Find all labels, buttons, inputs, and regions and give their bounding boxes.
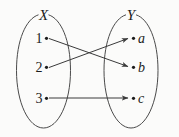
codomain-set-label: Y — [127, 7, 137, 23]
domain-element-3: 3 — [36, 91, 49, 106]
codomain-element-b: b — [132, 60, 145, 75]
domain-set-ellipse — [17, 15, 71, 128]
codomain-elements-group: a b c — [132, 31, 145, 106]
domain-element-2: 2 — [36, 60, 49, 75]
codomain-element-c-dot — [132, 97, 135, 100]
domain-element-3-dot — [45, 97, 48, 100]
domain-element-2-dot — [45, 66, 48, 69]
domain-element-1: 1 — [36, 31, 49, 46]
codomain-element-a: a — [132, 31, 145, 46]
codomain-element-a-dot — [132, 37, 135, 40]
domain-set-group: X — [17, 7, 71, 128]
codomain-element-b-dot — [132, 66, 135, 69]
domain-element-1-dot — [45, 37, 48, 40]
codomain-element-b-label: b — [138, 60, 145, 75]
mapping-arrows-group — [49, 39, 128, 99]
codomain-element-c-label: c — [138, 91, 145, 106]
codomain-set-group: Y — [104, 7, 158, 128]
domain-element-1-label: 1 — [36, 31, 43, 46]
codomain-element-a-label: a — [138, 31, 145, 46]
domain-set-label: X — [38, 7, 49, 23]
domain-elements-group: 1 2 3 — [36, 31, 49, 106]
domain-element-2-label: 2 — [36, 60, 43, 75]
codomain-element-c: c — [132, 91, 145, 106]
diagram-canvas: X Y 1 2 — [0, 0, 179, 137]
codomain-set-ellipse — [104, 15, 158, 128]
function-mapping-diagram: X Y 1 2 — [0, 0, 179, 137]
domain-element-3-label: 3 — [36, 91, 43, 106]
